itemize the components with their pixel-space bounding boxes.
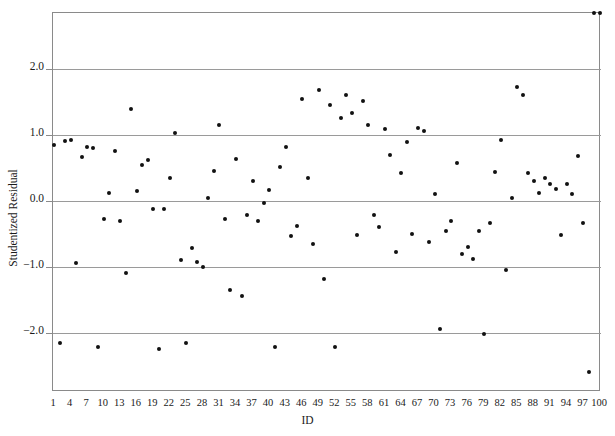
data-point [410,232,414,236]
data-point [537,191,541,195]
x-axis-tick-label: 28 [197,397,208,408]
data-point [162,207,166,211]
data-point [289,234,293,238]
data-point [488,221,492,225]
data-point [206,196,210,200]
y-axis-tick [46,267,53,268]
data-point [251,179,255,183]
data-point [510,196,514,200]
data-point [504,268,508,272]
gridline-y [53,267,601,268]
data-point [438,327,442,331]
x-axis-tick-label: 76 [461,397,472,408]
data-point [444,229,448,233]
data-point [499,138,503,142]
data-point [526,171,530,175]
data-point [592,11,596,15]
data-point [361,99,365,103]
y-axis-tick-label: 1.0 [10,126,44,138]
data-point [228,288,232,292]
x-axis-tick-label: 88 [528,397,539,408]
data-point [217,123,221,127]
data-point [554,187,558,191]
x-axis-tick-label: 67 [412,397,423,408]
x-axis-tick-label: 40 [263,397,274,408]
data-point [355,233,359,237]
x-axis-tick-label: 43 [279,397,290,408]
x-axis-tick-label: 79 [478,397,489,408]
data-point [173,131,177,135]
x-axis-tick-label: 22 [164,397,175,408]
data-point [52,143,56,147]
data-point [124,271,128,275]
data-point [377,225,381,229]
y-axis-tick-label: 2.0 [10,60,44,72]
x-axis-tick-labels: 1471013161922252831343740434649525558616… [0,397,615,413]
x-axis-tick-label: 70 [428,397,439,408]
data-point [548,182,552,186]
x-axis-tick-label: 73 [445,397,456,408]
plot-area [52,12,600,391]
data-point [102,217,106,221]
data-point [91,146,95,150]
gridline-y [53,201,601,202]
data-point [129,107,133,111]
data-point [140,163,144,167]
x-axis-tick-label: 37 [246,397,257,408]
x-axis-tick-label: 64 [395,397,406,408]
data-point [333,345,337,349]
data-point [80,155,84,159]
gridline-y [53,333,601,334]
data-point [85,145,89,149]
data-point [146,158,150,162]
gridline-y [53,135,601,136]
data-point [559,233,563,237]
data-point [477,229,481,233]
x-axis-tick-label: 85 [511,397,522,408]
data-point [581,221,585,225]
data-point [300,97,304,101]
data-point [493,170,497,174]
y-axis-tick-label: −1.0 [10,258,44,270]
x-axis-tick-label: 58 [362,397,373,408]
x-axis-tick-label: 91 [544,397,555,408]
data-point [311,242,315,246]
x-axis-tick-label: 97 [577,397,588,408]
data-point [576,154,580,158]
data-point [416,126,420,130]
data-point [422,129,426,133]
y-axis-tick-label: −2.0 [10,324,44,336]
data-point [306,176,310,180]
data-point [515,85,519,89]
data-point [179,258,183,262]
data-point [262,201,266,205]
x-axis-tick-label: 4 [67,397,72,408]
x-axis-tick-label: 10 [97,397,108,408]
y-axis-tick [46,201,53,202]
data-point [455,161,459,165]
data-point [372,213,376,217]
data-point [322,277,326,281]
data-point [74,261,78,265]
data-point [449,219,453,223]
data-point [118,219,122,223]
x-axis-tick-label: 7 [83,397,88,408]
data-point [63,139,67,143]
data-point [295,224,299,228]
y-axis-title-text: Studentized Residual [7,169,19,266]
x-axis-tick-label: 19 [147,397,158,408]
data-point [482,332,486,336]
data-point [587,370,591,374]
data-point [394,250,398,254]
x-axis-tick-label: 13 [114,397,125,408]
x-axis-tick-label: 46 [296,397,307,408]
y-axis-tick [46,69,53,70]
data-point [195,260,199,264]
data-point [284,145,288,149]
data-point [245,213,249,217]
data-point [427,240,431,244]
x-axis-tick-label: 1 [50,397,55,408]
data-point [184,341,188,345]
x-axis-tick-label: 94 [561,397,572,408]
x-axis-tick-label: 82 [494,397,505,408]
